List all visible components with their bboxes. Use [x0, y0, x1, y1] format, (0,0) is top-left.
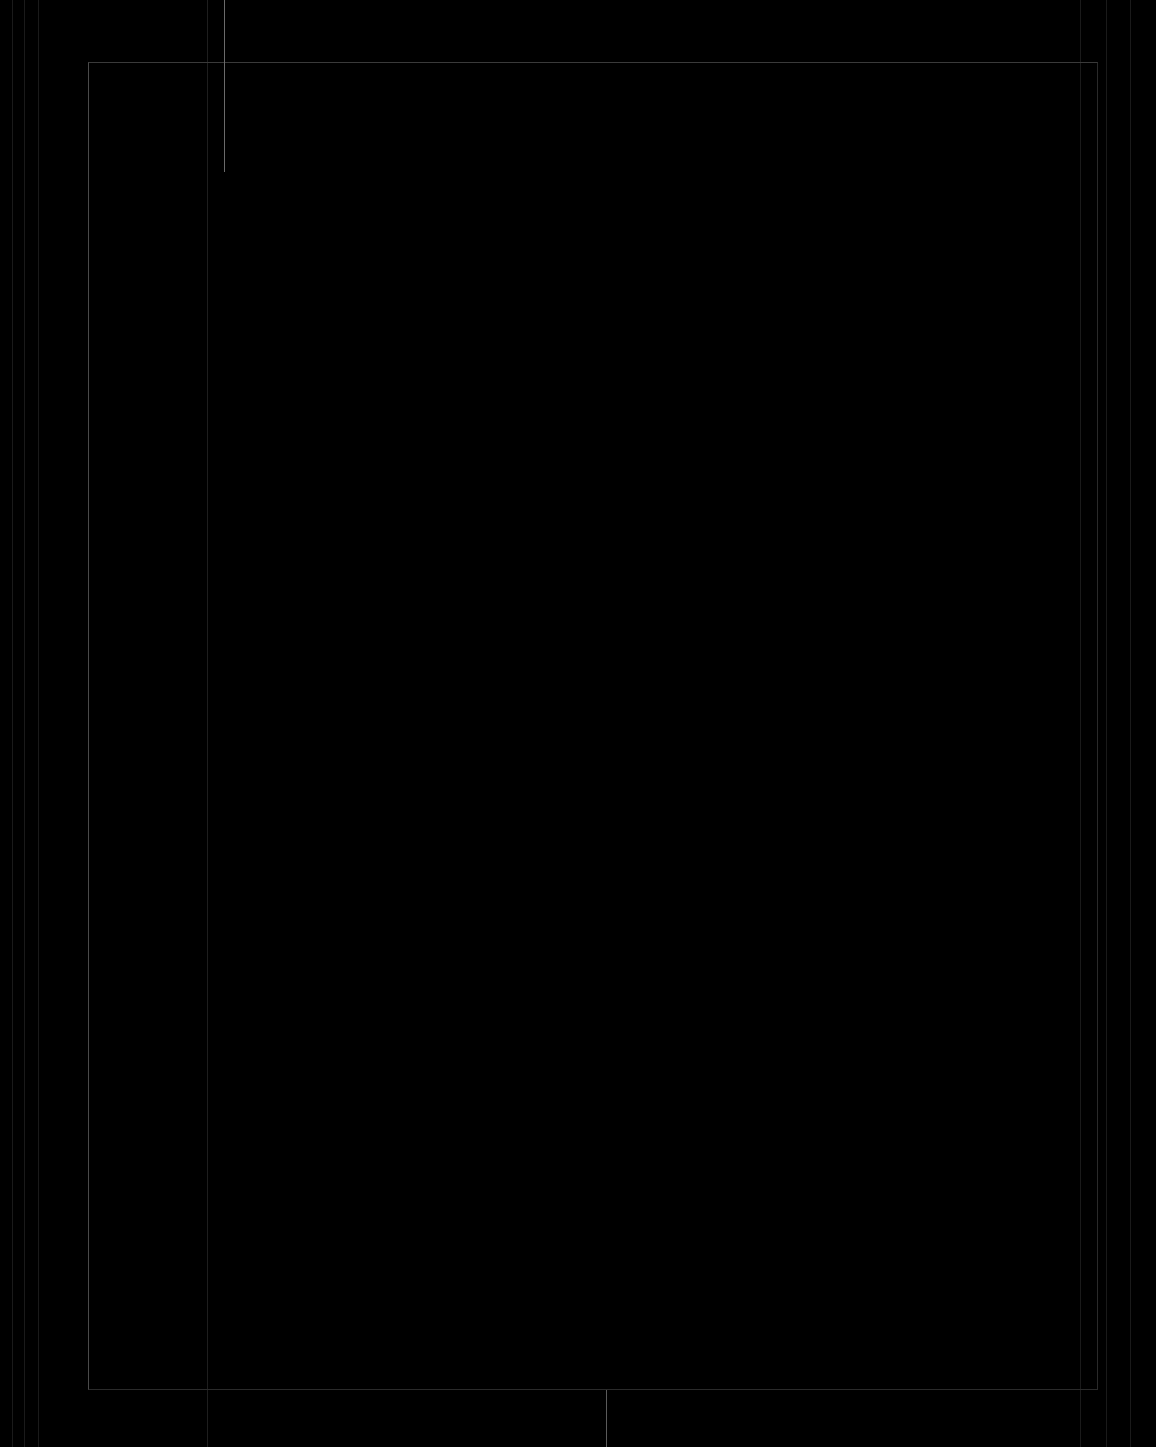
bottom-marker-line — [606, 1390, 607, 1447]
top-marker-line — [224, 0, 225, 172]
edge-line — [38, 0, 39, 1447]
frame-border — [88, 62, 1098, 1390]
edge-line — [1130, 0, 1131, 1447]
edge-line — [1106, 0, 1107, 1447]
edge-line — [24, 0, 25, 1447]
dark-canvas — [0, 0, 1156, 1447]
edge-line — [12, 0, 13, 1447]
